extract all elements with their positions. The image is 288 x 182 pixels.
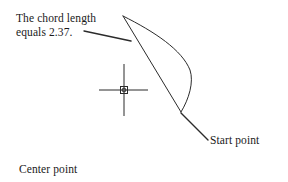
start-point-label: Start point (210, 133, 259, 147)
chord-length-annotation: The chord lengthequals 2.37. (16, 11, 96, 39)
center-point-label: Center point (19, 162, 77, 176)
start-point-leader-line (181, 113, 208, 140)
arc-curve (123, 16, 191, 112)
chord-length-line-1: The chord length (16, 12, 96, 24)
chord-length-line-2: equals 2.37. (16, 26, 72, 38)
diagram-canvas: The chord lengthequals 2.37. Start point… (0, 0, 288, 182)
chord-line (123, 16, 181, 112)
